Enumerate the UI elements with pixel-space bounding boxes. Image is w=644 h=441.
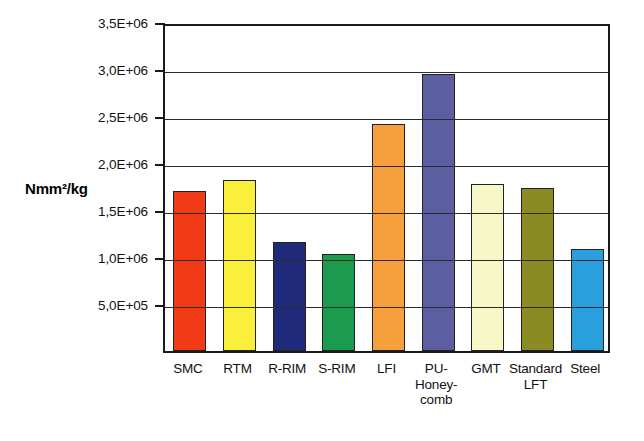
x-axis-tick-label-line: comb — [403, 392, 469, 408]
gridline — [165, 213, 608, 214]
bar — [322, 254, 355, 351]
y-axis-tick-label: 2,5E+06 — [62, 111, 148, 125]
y-axis-tick-label: 3,5E+06 — [62, 17, 148, 31]
bar-chart: Nmm²/kg 5,0E+051,0E+061,5E+062,0E+062,5E… — [0, 0, 644, 441]
x-axis-tick-label-line: Honey- — [403, 377, 469, 393]
gridline — [165, 260, 608, 261]
y-axis-tick — [155, 258, 165, 260]
y-axis-tick — [155, 305, 165, 307]
y-axis-tick-label: 2,0E+06 — [62, 158, 148, 172]
x-axis-tick-label: Steel — [552, 361, 618, 377]
bar — [173, 191, 206, 351]
x-axis-labels: SMCRTMR-RIMS-RIMLFIPU-Honey-combGMTStand… — [163, 361, 610, 437]
bar-series — [165, 26, 608, 351]
gridline — [165, 119, 608, 120]
bar — [372, 124, 405, 351]
bar — [223, 180, 256, 351]
y-axis-tick-label: 1,5E+06 — [62, 205, 148, 219]
bar — [571, 249, 604, 351]
y-axis-tick-label: 1,0E+06 — [62, 252, 148, 266]
gridline — [165, 166, 608, 167]
y-axis-tick-label: 5,0E+05 — [62, 299, 148, 313]
y-axis-tick — [155, 164, 165, 166]
y-axis-tick — [155, 23, 165, 25]
y-axis-tick-label: 3,0E+06 — [62, 64, 148, 78]
gridline — [165, 72, 608, 73]
y-axis-tick — [155, 70, 165, 72]
plot-area — [163, 24, 610, 353]
gridline — [165, 307, 608, 308]
x-axis-tick-label-line: Steel — [552, 361, 618, 377]
y-axis-tick — [155, 117, 165, 119]
bar — [273, 242, 306, 351]
x-axis-tick-label-line: LFT — [503, 377, 569, 393]
bar — [471, 184, 504, 351]
y-axis-labels: 5,0E+051,0E+061,5E+062,0E+062,5E+063,0E+… — [52, 0, 148, 441]
y-axis-tick — [155, 211, 165, 213]
